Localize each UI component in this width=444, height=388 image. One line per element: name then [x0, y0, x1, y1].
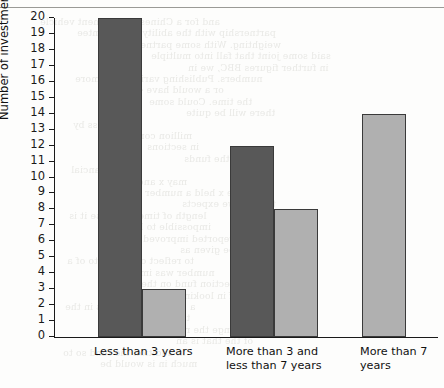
y-tick-label-18: 18 — [23, 42, 45, 55]
y-tick-11: 11 — [49, 161, 54, 162]
y-tick-3: 3 — [49, 288, 54, 289]
chart-page: and for a Chinese investment vehiclepart… — [0, 0, 444, 388]
y-tick-label-5: 5 — [23, 249, 45, 262]
y-tick-0: 0 — [49, 336, 54, 337]
x-axis-line — [54, 337, 438, 338]
y-tick-10: 10 — [49, 177, 54, 178]
y-tick-12: 12 — [49, 145, 54, 146]
y-tick-label-20: 20 — [23, 10, 45, 23]
y-tick-8: 8 — [49, 208, 54, 209]
y-tick-label-12: 12 — [23, 138, 45, 151]
y-axis-line — [54, 18, 55, 338]
y-tick-label-14: 14 — [23, 106, 45, 119]
y-tick-label-15: 15 — [23, 90, 45, 103]
plot-area: 01234567891011121314151617181920 — [54, 18, 438, 338]
y-tick-label-6: 6 — [23, 233, 45, 246]
bar-light-group-2 — [362, 114, 406, 337]
y-tick-label-13: 13 — [23, 122, 45, 135]
y-tick-label-3: 3 — [23, 281, 45, 294]
y-axis-title: Number of investments — [0, 0, 11, 120]
y-tick-15: 15 — [49, 97, 54, 98]
y-tick-label-16: 16 — [23, 74, 45, 87]
y-tick-4: 4 — [49, 272, 54, 273]
x-category-label-0: Less than 3 years — [94, 345, 193, 359]
y-tick-7: 7 — [49, 224, 54, 225]
y-tick-label-10: 10 — [23, 170, 45, 183]
bar-light-group-1 — [274, 209, 318, 337]
bar-dark-group-0 — [98, 18, 142, 337]
y-tick-label-7: 7 — [23, 217, 45, 230]
y-tick-16: 16 — [49, 81, 54, 82]
page-top-rule — [0, 7, 444, 8]
y-tick-9: 9 — [49, 192, 54, 193]
y-tick-label-1: 1 — [23, 313, 45, 326]
y-tick-13: 13 — [49, 129, 54, 130]
y-tick-label-11: 11 — [23, 154, 45, 167]
bar-dark-group-1 — [230, 146, 274, 337]
y-tick-label-2: 2 — [23, 297, 45, 310]
bar-light-group-0 — [142, 289, 186, 337]
y-tick-6: 6 — [49, 240, 54, 241]
y-tick-17: 17 — [49, 65, 54, 66]
y-tick-5: 5 — [49, 256, 54, 257]
y-tick-label-9: 9 — [23, 185, 45, 198]
y-tick-label-19: 19 — [23, 26, 45, 39]
y-tick-label-0: 0 — [23, 329, 45, 342]
y-tick-18: 18 — [49, 49, 54, 50]
y-tick-label-17: 17 — [23, 58, 45, 71]
y-tick-14: 14 — [49, 113, 54, 114]
y-tick-label-4: 4 — [23, 265, 45, 278]
bleed-text-line: much in is would be — [100, 358, 197, 369]
x-category-label-1: More than 3 and less than 7 years — [226, 345, 322, 373]
y-tick-label-8: 8 — [23, 201, 45, 214]
y-tick-19: 19 — [49, 33, 54, 34]
y-tick-20: 20 — [49, 17, 54, 18]
y-tick-2: 2 — [49, 304, 54, 305]
x-category-label-2: More than 7 years — [360, 345, 444, 373]
y-tick-1: 1 — [49, 320, 54, 321]
